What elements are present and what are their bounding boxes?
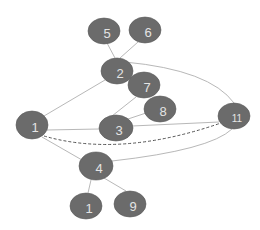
- node-label: 1: [85, 201, 92, 216]
- edge-n2-n1a: [44, 80, 105, 116]
- node-n2: 2: [101, 58, 133, 84]
- graph-diagram: 562781311419: [0, 0, 260, 230]
- edge-n5-n2: [107, 43, 115, 58]
- node-label: 5: [103, 26, 110, 41]
- node-n8: 8: [144, 96, 176, 122]
- node-n1a: 1: [16, 111, 48, 139]
- node-label: 6: [144, 25, 151, 40]
- node-n11: 11: [218, 103, 250, 129]
- node-label: 3: [115, 123, 122, 138]
- edges-layer: [42, 42, 234, 193]
- node-label: 2: [116, 66, 123, 81]
- edge-n1a-n4: [42, 137, 82, 160]
- node-label: 1: [31, 120, 38, 135]
- node-label: 8: [159, 104, 166, 119]
- edge-n1a-n3: [47, 129, 99, 130]
- node-n7: 7: [128, 72, 160, 98]
- edge-n7-n3: [112, 97, 136, 116]
- node-n9: 9: [114, 191, 146, 217]
- edge-n4-n9: [104, 178, 126, 191]
- edge-n8-n3: [128, 113, 146, 119]
- edge-n3-n11: [132, 122, 219, 126]
- node-label: 11: [232, 113, 243, 124]
- edge-n6-n2: [120, 42, 138, 58]
- node-n4: 4: [79, 152, 113, 180]
- node-n6: 6: [129, 17, 161, 43]
- edge-n4-n1b: [88, 180, 91, 193]
- node-n3: 3: [99, 115, 133, 141]
- node-n1b: 1: [70, 193, 102, 219]
- graph-canvas: 562781311419: [0, 0, 260, 230]
- node-label: 9: [129, 199, 136, 214]
- node-label: 7: [143, 80, 150, 95]
- node-label: 4: [95, 161, 102, 176]
- node-n5: 5: [88, 18, 120, 44]
- nodes-layer: 562781311419: [16, 17, 250, 219]
